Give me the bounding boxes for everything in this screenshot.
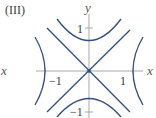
y-tick-label-neg1: −1 <box>70 106 83 118</box>
x-axis-label-left: x <box>1 64 7 77</box>
x-tick-label-1: 1 <box>120 75 126 87</box>
phase-diagram <box>0 0 156 118</box>
x-axis-label: x <box>147 64 153 77</box>
y-tick-label-1: 1 <box>77 23 83 35</box>
panel-label: (III) <box>5 4 25 16</box>
origin-point <box>87 69 91 73</box>
y-axis-label: y <box>85 1 91 14</box>
x-tick-label-neg1: −1 <box>49 75 62 87</box>
